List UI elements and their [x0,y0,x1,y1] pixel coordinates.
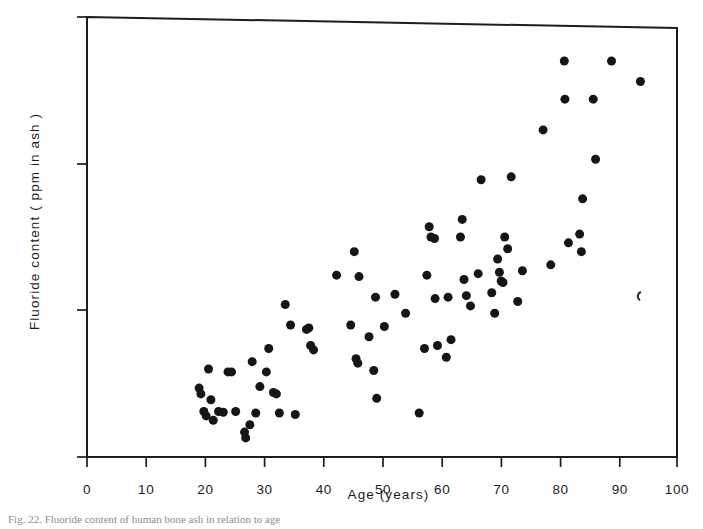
data-point-partial [638,292,640,299]
plot-area: 0 1 000 2 000 3 000 0 10 20 30 40 50 60 … [86,16,678,458]
data-point [286,321,295,330]
data-point [251,409,260,418]
y-axis-tick-marks [77,17,87,457]
data-point [636,77,645,86]
data-point [227,367,236,376]
data-point [262,367,271,376]
data-point [500,233,509,242]
data-point [591,155,600,164]
data-point [487,288,496,297]
data-point [433,341,442,350]
data-point [346,321,355,330]
data-point [513,297,522,306]
x-axis-title-text: Age (years) [348,487,430,502]
data-point [248,357,257,366]
data-point [241,433,250,442]
data-point [493,255,502,264]
data-point [546,260,555,269]
x-axis-title: Age (years) [0,487,703,502]
data-point [420,344,429,353]
data-point [369,366,378,375]
data-point [350,247,359,256]
data-point [264,344,273,353]
data-point [275,409,284,418]
data-point [309,345,318,354]
data-point [415,409,424,418]
data-markers [195,57,645,443]
data-point [490,309,499,318]
data-point [444,293,453,302]
data-point [291,410,300,419]
data-point [281,300,290,309]
data-point [575,230,584,239]
data-point [518,266,527,275]
data-point [458,215,467,224]
data-point [507,172,516,181]
data-point [462,291,471,300]
data-point [466,301,475,310]
data-point [304,323,313,332]
data-point [607,57,616,66]
data-point [474,269,483,278]
data-point [431,294,440,303]
data-point [401,309,410,318]
data-point [447,335,456,344]
data-point [422,271,431,280]
data-point [209,416,218,425]
data-point [272,389,281,398]
data-point [332,271,341,280]
data-point [371,293,380,302]
data-point [477,175,486,184]
data-point [564,238,573,247]
data-point [206,395,215,404]
plot-canvas [86,16,678,458]
figure-scatter-fluoride-vs-age: 0 1 000 2 000 3 000 0 10 20 30 40 50 60 … [0,0,703,529]
data-point [560,95,569,104]
data-point [539,125,548,134]
data-point [372,394,381,403]
data-point [578,194,587,203]
data-point [577,247,586,256]
data-point [380,322,389,331]
data-point [498,278,507,287]
data-point [365,332,374,341]
data-point [425,222,434,231]
data-point [589,95,598,104]
data-point [354,272,363,281]
data-point [503,244,512,253]
data-point [353,359,362,368]
data-point [560,57,569,66]
data-point [460,275,469,284]
data-point [495,268,504,277]
data-point [390,290,399,299]
data-point [245,420,254,429]
data-point [204,365,213,374]
data-point [255,382,264,391]
data-point [219,408,228,417]
data-point [442,353,451,362]
data-point [430,234,439,243]
data-point [231,407,240,416]
x-axis-tick-marks [87,457,677,467]
figure-caption: Fig. 22. Fluoride content of human bone … [8,513,698,529]
data-point [456,233,465,242]
axis-frame [87,17,677,457]
data-point [196,389,205,398]
y-axis-title: Fluoride content ( ppm in ash ) [27,2,42,442]
